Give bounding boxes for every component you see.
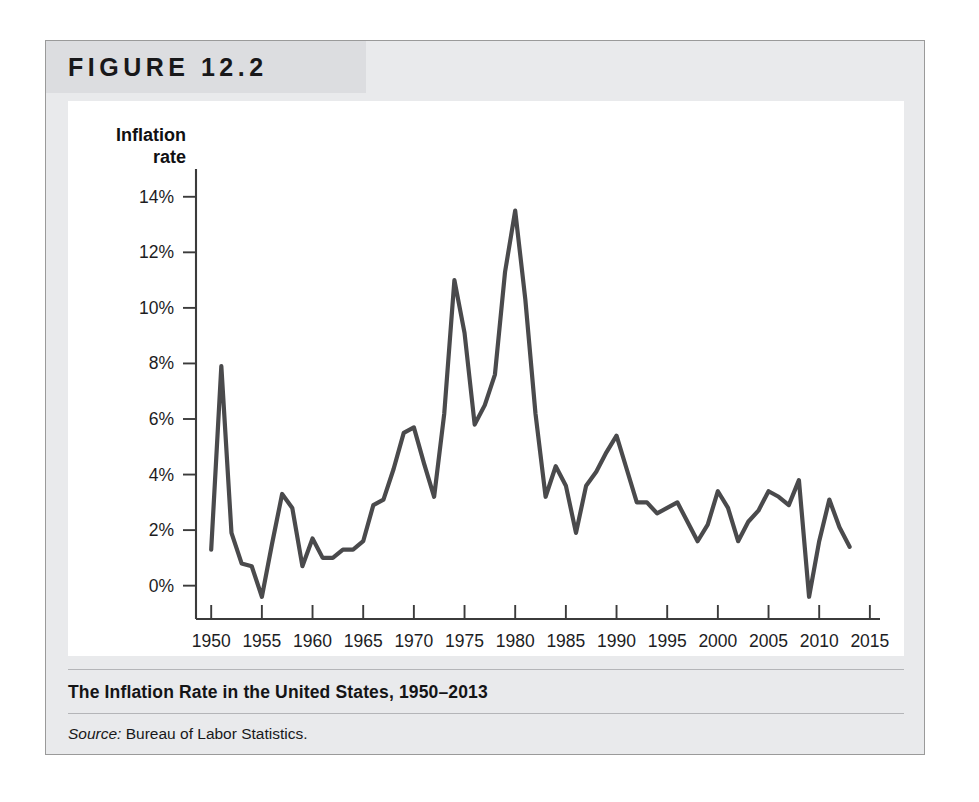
y-axis-tick-label: 4% bbox=[149, 465, 174, 485]
figure-number-banner: FIGURE 12.2 bbox=[46, 41, 366, 93]
x-axis-tick-labels: 1950195519601965197019751980198519901995… bbox=[192, 631, 890, 651]
source-bar: Source: Bureau of Labor Statistics. bbox=[68, 713, 904, 754]
y-axis-tick-label: 12% bbox=[139, 242, 174, 262]
x-axis-tick-label: 1955 bbox=[242, 631, 281, 651]
figure-caption: The Inflation Rate in the United States,… bbox=[68, 682, 488, 703]
x-axis-tick-label: 1970 bbox=[394, 631, 433, 651]
x-axis-tick-label: 1960 bbox=[293, 631, 332, 651]
x-axis-tick-label: 2005 bbox=[749, 631, 788, 651]
chart-plot-area: 14%12%10%8%6%4%2%0% 19501955196019651970… bbox=[68, 101, 904, 656]
x-axis-tick-label: 2015 bbox=[850, 631, 889, 651]
x-axis-tick-label: 1980 bbox=[496, 631, 535, 651]
figure-number-label: FIGURE 12.2 bbox=[68, 53, 268, 82]
x-axis-tick-label: 1995 bbox=[648, 631, 687, 651]
x-axis-ticks bbox=[211, 605, 870, 619]
x-axis-tick-label: 1975 bbox=[445, 631, 484, 651]
y-axis-title-line2: rate bbox=[153, 147, 186, 167]
y-axis-tick-label: 6% bbox=[149, 409, 174, 429]
x-axis-tick-label: 1985 bbox=[546, 631, 585, 651]
y-axis-tick-label: 10% bbox=[139, 298, 174, 318]
y-axis-tick-labels: 14%12%10%8%6%4%2%0% bbox=[139, 187, 174, 596]
y-axis-tick-label: 0% bbox=[149, 576, 174, 596]
y-axis-tick-label: 2% bbox=[149, 520, 174, 540]
caption-bar: The Inflation Rate in the United States,… bbox=[68, 669, 904, 714]
x-axis-tick-label: 1950 bbox=[192, 631, 231, 651]
y-axis-title-line1: Inflation bbox=[116, 125, 186, 145]
source-value: Bureau of Labor Statistics. bbox=[126, 725, 308, 742]
x-axis-tick-label: 1965 bbox=[344, 631, 383, 651]
y-axis-tick-label: 14% bbox=[139, 187, 174, 207]
inflation-line-chart: 14%12%10%8%6%4%2%0% 19501955196019651970… bbox=[68, 101, 904, 656]
y-axis-tick-label: 8% bbox=[149, 353, 174, 373]
x-axis-tick-label: 2000 bbox=[698, 631, 737, 651]
x-axis-tick-label: 2010 bbox=[800, 631, 839, 651]
inflation-rate-line bbox=[211, 211, 849, 597]
source-label: Source: bbox=[68, 725, 121, 742]
figure-panel: FIGURE 12.2 14%12%10%8%6%4%2%0% 19501955… bbox=[45, 40, 925, 755]
source-note: Source: Bureau of Labor Statistics. bbox=[68, 725, 308, 743]
x-axis-tick-label: 1990 bbox=[597, 631, 636, 651]
y-axis-ticks bbox=[183, 197, 196, 586]
